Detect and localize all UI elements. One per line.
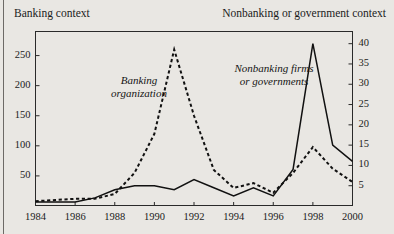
x-axis-tick-label: 1986 <box>55 211 95 222</box>
series-label-banking-organization: Banking organization <box>95 74 183 100</box>
left-axis-tick-label: 200 <box>15 79 31 90</box>
right-axis-tick-label: 20 <box>359 118 370 129</box>
plot-frame <box>35 31 353 206</box>
left-axis-tick-label: 50 <box>20 169 31 180</box>
x-axis-tick-label: 1996 <box>253 211 293 222</box>
right-axis-tick-label: 15 <box>359 138 370 149</box>
right-axis-context-title: Nonbanking or government context <box>222 5 386 21</box>
right-axis-tick-label: 25 <box>359 98 370 109</box>
left-axis-tick-label: 250 <box>15 49 31 60</box>
x-axis-tick-label: 1998 <box>293 211 333 222</box>
left-axis-tick-label: 100 <box>15 139 31 150</box>
left-axis-context-title: Banking context <box>14 5 90 21</box>
x-axis-tick-label: 2000 <box>333 211 373 222</box>
x-axis-tick-label: 1992 <box>174 211 214 222</box>
chart-figure: Banking context Nonbanking or government… <box>0 0 394 234</box>
right-axis-tick-label: 30 <box>359 77 370 88</box>
right-axis-tick-label: 35 <box>359 57 370 68</box>
series-label-line-1: Banking <box>95 74 183 87</box>
x-axis-tick-label: 1994 <box>214 211 254 222</box>
x-axis-tick-label: 1988 <box>95 211 135 222</box>
left-axis-tick-label: 150 <box>15 109 31 120</box>
series-label-line-1: Nonbanking firms <box>222 62 326 75</box>
series-label-line-2: organization <box>95 87 183 100</box>
right-axis-tick-label: 40 <box>359 37 370 48</box>
series-label-line-2: or governments <box>222 75 326 88</box>
page-edge-rule <box>3 0 4 234</box>
right-axis-tick-label: 10 <box>359 158 370 169</box>
x-axis-tick-label: 1984 <box>16 211 56 222</box>
series-label-nonbanking-firms: Nonbanking firms or governments <box>222 62 326 88</box>
right-axis-tick-label: 5 <box>359 179 364 190</box>
x-axis-tick-label: 1990 <box>134 211 174 222</box>
